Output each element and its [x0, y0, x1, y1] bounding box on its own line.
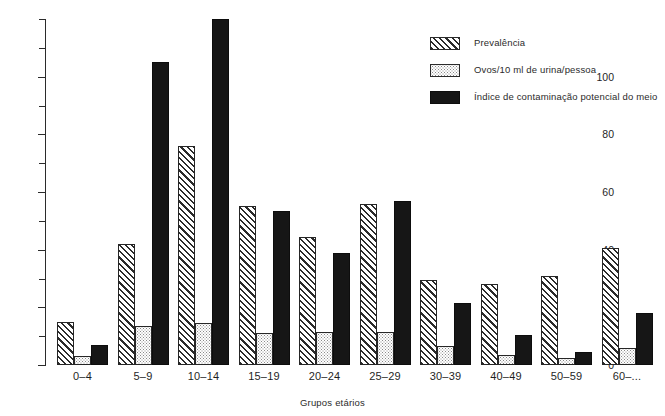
bar-hatched: [118, 244, 135, 365]
legend-swatch-solid-icon: [430, 91, 460, 104]
bar-dotted: [195, 323, 212, 365]
y-axis-tick: [38, 307, 45, 308]
bar-dotted: [316, 332, 333, 365]
x-axis-tick-label: 60–...: [592, 371, 663, 382]
bar-dotted: [558, 358, 575, 365]
x-axis-title: Grupos etários: [0, 397, 665, 408]
bar-solid: [152, 62, 169, 365]
bar-dotted: [377, 332, 394, 365]
bar-solid: [454, 303, 471, 365]
legend-item: Índice de contaminação potencial do meio: [430, 86, 665, 109]
bar-hatched: [602, 248, 619, 365]
legend-label: Índice de contaminação potencial do meio: [474, 92, 657, 102]
bar-solid: [515, 335, 532, 365]
bar-solid: [212, 19, 229, 365]
bar-group: [57, 19, 108, 365]
bar-dotted: [437, 346, 454, 365]
bar-hatched: [239, 206, 256, 365]
bar-solid: [575, 352, 592, 365]
y-axis-tick: [38, 365, 45, 366]
bar-solid: [394, 201, 411, 365]
bar-hatched: [178, 146, 195, 365]
y-axis-tick: [38, 77, 45, 78]
bar-chart: 020406080100 0–45–910–1415–1920–2425–293…: [0, 0, 665, 416]
legend-swatch-dotted-icon: [430, 64, 460, 77]
bar-hatched: [57, 322, 74, 365]
bar-solid: [91, 345, 108, 365]
bar-hatched: [420, 280, 437, 365]
chart-legend: PrevalênciaOvos/10 ml de urina/pessoaÍnd…: [430, 32, 665, 113]
bar-hatched: [360, 204, 377, 365]
y-axis-tick: [38, 134, 45, 135]
bar-group: [118, 19, 169, 365]
y-axis-tick: [38, 192, 45, 193]
legend-swatch-hatched-icon: [430, 37, 460, 50]
bar-hatched: [299, 237, 316, 365]
bar-solid: [273, 211, 290, 365]
y-axis-tick: [38, 250, 45, 251]
bar-group: [239, 19, 290, 365]
bar-dotted: [135, 326, 152, 365]
bar-hatched: [481, 284, 498, 365]
legend-item: Prevalência: [430, 32, 665, 55]
bar-dotted: [498, 355, 515, 365]
bar-group: [360, 19, 411, 365]
bar-dotted: [619, 348, 636, 365]
bar-group: [299, 19, 350, 365]
y-axis-ticks: [38, 19, 45, 366]
bar-solid: [333, 253, 350, 365]
bar-group: [178, 19, 229, 365]
bar-hatched: [541, 276, 558, 365]
legend-label: Prevalência: [474, 38, 525, 48]
bar-solid: [636, 313, 653, 365]
bar-dotted: [74, 356, 91, 365]
bar-dotted: [256, 333, 273, 365]
legend-item: Ovos/10 ml de urina/pessoa: [430, 59, 665, 82]
legend-label: Ovos/10 ml de urina/pessoa: [474, 65, 596, 75]
